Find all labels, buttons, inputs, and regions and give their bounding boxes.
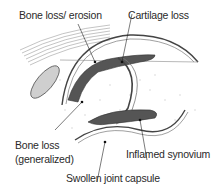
label-bone-loss-erosion: Bone loss/ erosion: [19, 9, 102, 21]
label-swollen-joint-capsule: Swollen joint capsule: [66, 172, 160, 184]
label-bone-loss-generalized-1: Bone loss: [15, 139, 59, 151]
label-bone-loss-generalized-2: (generalized): [15, 153, 74, 165]
inflamed-synovium-lower: [88, 110, 157, 125]
label-cartilage-loss: Cartilage loss: [128, 9, 189, 21]
label-inflamed-synovium: Inflamed synovium: [126, 148, 210, 160]
inflamed-synovium-upper: [68, 55, 155, 102]
ligament: [26, 62, 64, 103]
